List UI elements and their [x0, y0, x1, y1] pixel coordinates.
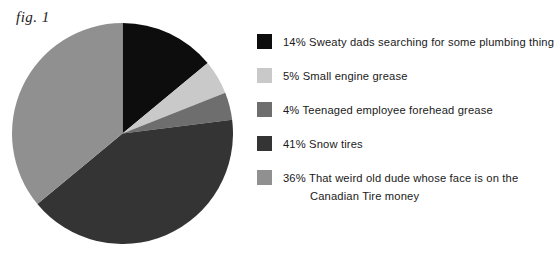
legend-label-line: 41% Snow tires [283, 138, 363, 150]
chart-legend: 14% Sweaty dads searching for some plumb… [257, 33, 535, 205]
pie-chart [12, 23, 233, 244]
legend-item-sweaty-dads: 14% Sweaty dads searching for some plumb… [257, 33, 535, 51]
legend-label-line: 36% That weird old dude whose face is on… [283, 172, 518, 184]
legend-item-snow-tires: 41% Snow tires [257, 135, 535, 153]
legend-label-teenaged-employee-forehead-grease: 4% Teenaged employee forehead grease [283, 101, 493, 119]
legend-label-line: 4% Teenaged employee forehead grease [283, 104, 493, 116]
legend-label-line-2: Canadian Tire money [283, 187, 518, 205]
legend-swatch-canadian-tire-money [257, 170, 272, 185]
pie-chart-svg [12, 23, 233, 244]
legend-item-small-engine-grease: 5% Small engine grease [257, 67, 535, 85]
legend-item-teenaged-employee-forehead-grease: 4% Teenaged employee forehead grease [257, 101, 535, 119]
legend-label-line: 5% Small engine grease [283, 70, 408, 82]
pie-slice-group [12, 23, 233, 244]
legend-swatch-snow-tires [257, 136, 272, 151]
legend-label-snow-tires: 41% Snow tires [283, 135, 363, 153]
legend-label-canadian-tire-money: 36% That weird old dude whose face is on… [283, 169, 518, 205]
legend-swatch-teenaged-employee-forehead-grease [257, 102, 272, 117]
legend-label-small-engine-grease: 5% Small engine grease [283, 67, 408, 85]
legend-swatch-sweaty-dads [257, 34, 272, 49]
legend-swatch-small-engine-grease [257, 68, 272, 83]
legend-label-line: 14% Sweaty dads searching for some plumb… [283, 36, 554, 48]
legend-label-sweaty-dads: 14% Sweaty dads searching for some plumb… [283, 33, 554, 51]
legend-item-canadian-tire-money: 36% That weird old dude whose face is on… [257, 169, 535, 205]
